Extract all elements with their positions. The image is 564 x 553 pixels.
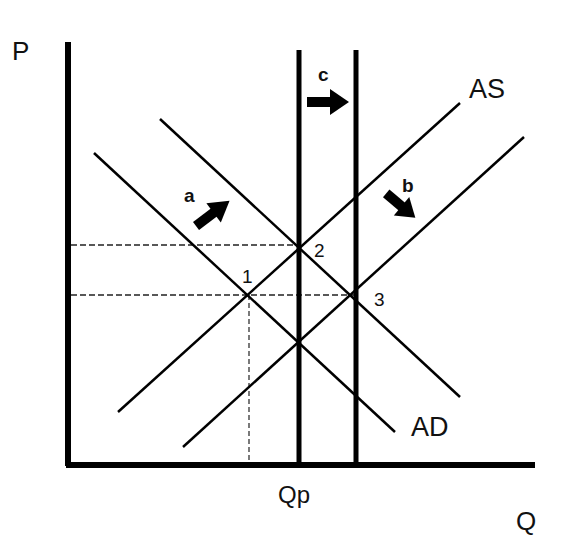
qp-label: Qp: [278, 481, 310, 508]
arrow-c-label: c: [318, 64, 329, 85]
arrow-a-icon: [189, 191, 237, 235]
point-1-label: 1: [242, 266, 253, 287]
as-label: AS: [469, 74, 505, 104]
arrow-c-icon: [307, 89, 349, 115]
shift-arrows: [189, 89, 423, 236]
y-axis-label: P: [12, 36, 29, 66]
potential-output-lines: [299, 50, 356, 465]
as-curve-original: [118, 103, 460, 412]
arrow-a-label: a: [184, 185, 195, 206]
guide-lines: [71, 245, 356, 462]
arrow-b-label: b: [402, 175, 414, 196]
arrow-b-icon: [378, 184, 423, 227]
as-curves: [118, 103, 524, 447]
ad-curve-shifted: [160, 119, 460, 397]
x-axis-label: Q: [516, 506, 536, 536]
point-3-label: 3: [374, 289, 385, 310]
ad-as-diagram: P Q Qp AS AD a b c 1 2 3: [0, 0, 564, 553]
point-2-label: 2: [314, 240, 325, 261]
ad-label: AD: [411, 412, 449, 442]
